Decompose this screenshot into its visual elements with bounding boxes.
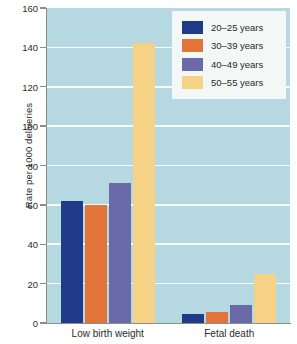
y-tick-mark (40, 244, 46, 245)
y-tick-mark (40, 204, 46, 205)
bar (230, 305, 252, 323)
y-tick-label: 100 (2, 121, 38, 132)
legend-item: 50–55 years (172, 74, 286, 91)
legend-label: 20–25 years (211, 22, 263, 33)
gridline (47, 243, 290, 245)
y-tick-mark (40, 322, 46, 323)
y-tick-mark (40, 7, 46, 8)
y-tick-mark (40, 125, 46, 126)
y-tick-label: 160 (2, 3, 38, 14)
y-tick-mark (40, 47, 46, 48)
legend-color-swatch (182, 76, 203, 89)
y-tick-label: 140 (2, 42, 38, 53)
y-axis-line (46, 8, 47, 324)
bar (182, 314, 204, 323)
gridline (47, 125, 290, 127)
legend: 20–25 years30–39 years40–49 years50–55 y… (172, 11, 286, 99)
y-tick-label: 120 (2, 81, 38, 92)
legend-item: 30–39 years (172, 37, 286, 54)
bar (206, 312, 228, 323)
y-axis-title: Rate per 1000 deliveries (23, 76, 34, 236)
y-tick-label: 20 (2, 278, 38, 289)
bar-chart: Rate per 1000 deliveries 020406080100120… (0, 0, 297, 344)
legend-item: 40–49 years (172, 56, 286, 73)
y-tick-mark (40, 283, 46, 284)
y-tick-mark (40, 165, 46, 166)
legend-label: 50–55 years (211, 77, 263, 88)
bar (254, 274, 276, 323)
x-axis-category-label: Fetal death (204, 328, 254, 339)
legend-color-swatch (182, 21, 203, 34)
bar (133, 43, 155, 323)
x-axis-category-label: Low birth weight (72, 328, 144, 339)
y-tick-label: 0 (2, 318, 38, 329)
legend-item: 20–25 years (172, 19, 286, 36)
legend-color-swatch (182, 58, 203, 71)
bar (61, 201, 83, 323)
gridline (47, 204, 290, 206)
legend-label: 40–49 years (211, 59, 263, 70)
y-tick-label: 40 (2, 239, 38, 250)
x-axis-line (46, 323, 291, 324)
gridline (47, 165, 290, 167)
bar (109, 183, 131, 323)
y-tick-label: 60 (2, 199, 38, 210)
legend-color-swatch (182, 39, 203, 52)
legend-label: 30–39 years (211, 40, 263, 51)
bar (85, 205, 107, 323)
y-tick-mark (40, 86, 46, 87)
y-tick-label: 80 (2, 160, 38, 171)
